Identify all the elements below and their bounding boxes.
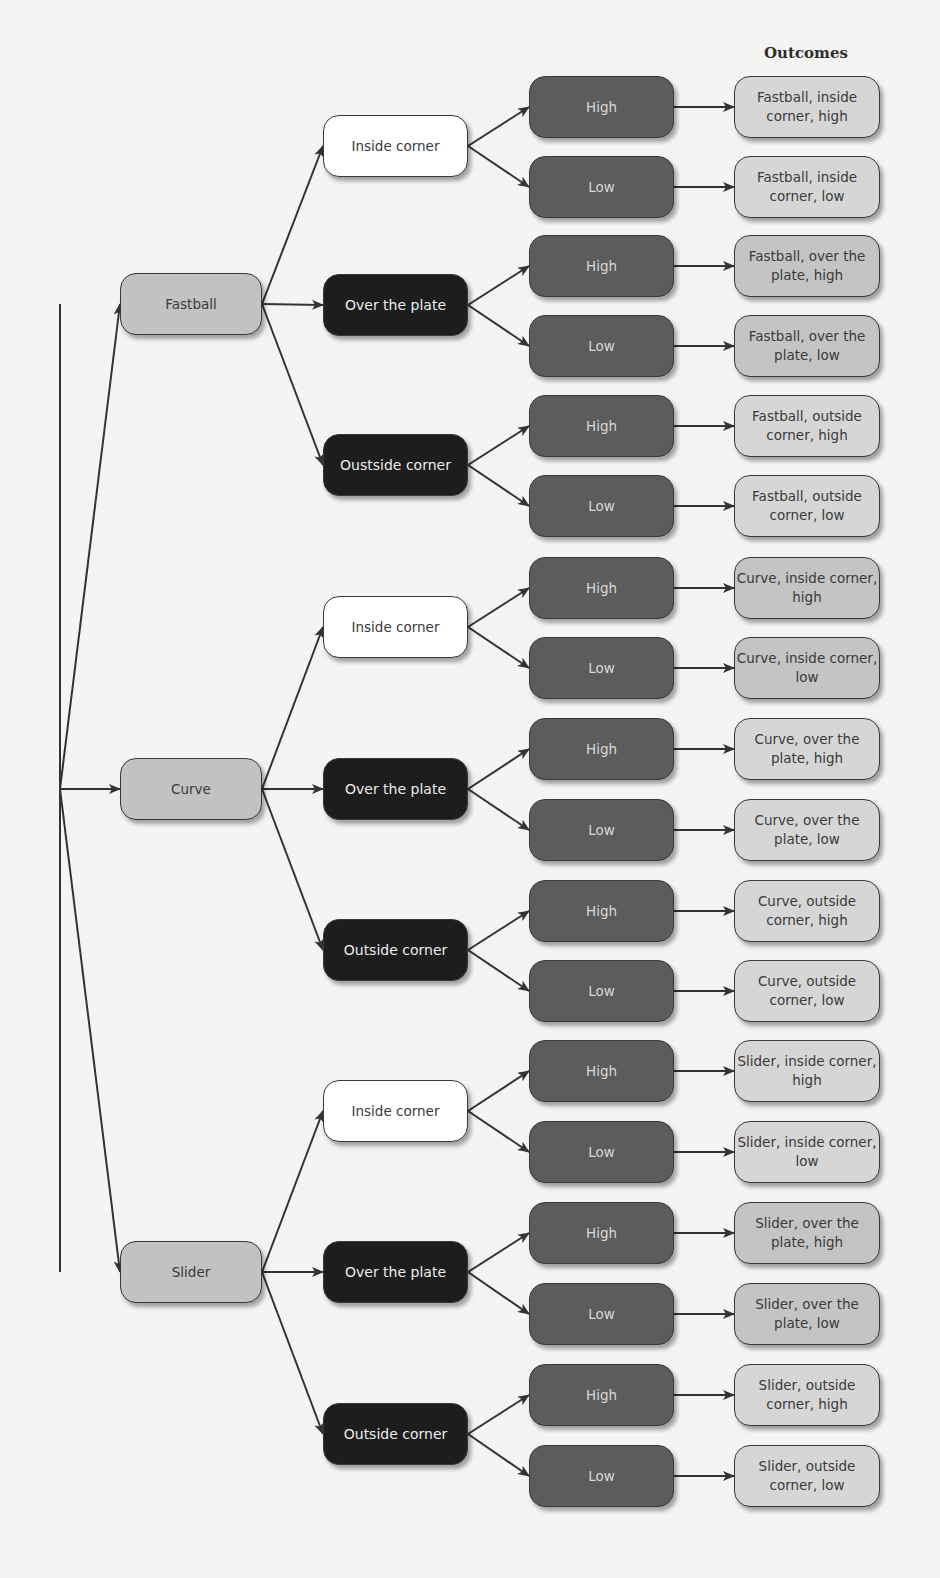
outcome-node-fastball-over-the-plate-low: Fastball, over the plate, low [734,315,880,377]
outcome-node-curve-inside-corner-low: Curve, inside corner, low [734,637,880,699]
height-node-slider-inside-corner-high-label: High [586,1062,617,1081]
location-node-fastball-over-the-plate: Over the plate [323,274,468,336]
outcome-node-slider-outside-corner-low-label: Slider, outside corner, low [735,1457,879,1495]
connector-arrow [468,305,529,346]
pitch-node-curve: Curve [120,758,262,820]
height-node-slider-over-the-plate-low-label: Low [588,1305,615,1324]
location-node-slider-over-the-plate: Over the plate [323,1241,468,1303]
connector-arrow [468,1272,529,1314]
connector-arrow [468,1071,529,1111]
location-node-curve-over-the-plate: Over the plate [323,758,468,820]
outcome-node-curve-outside-corner-low: Curve, outside corner, low [734,960,880,1022]
connector-arrow [60,789,120,1272]
outcomes-heading: Outcomes [764,44,848,62]
pitch-node-fastball: Fastball [120,273,262,335]
connector-arrow [468,266,529,305]
outcome-node-slider-outside-corner-high: Slider, outside corner, high [734,1364,880,1426]
outcome-node-fastball-inside-corner-high-label: Fastball, inside corner, high [735,88,879,126]
height-node-slider-inside-corner-low-label: Low [588,1143,615,1162]
height-node-slider-outside-corner-high-label: High [586,1386,617,1405]
outcome-node-curve-outside-corner-high: Curve, outside corner, high [734,880,880,942]
height-node-curve-over-the-plate-low: Low [529,799,674,861]
height-node-curve-over-the-plate-low-label: Low [588,821,615,840]
height-node-curve-over-the-plate-high: High [529,718,674,780]
outcome-node-fastball-over-the-plate-high-label: Fastball, over the plate, high [735,247,879,285]
outcome-node-curve-over-the-plate-high: Curve, over the plate, high [734,718,880,780]
location-node-slider-outside-corner-label: Outside corner [344,1425,448,1444]
outcome-node-fastball-over-the-plate-high: Fastball, over the plate, high [734,235,880,297]
height-node-fastball-oustside-corner-high-label: High [586,417,617,436]
height-node-fastball-over-the-plate-high: High [529,235,674,297]
connector-arrow [468,911,529,950]
pitch-node-fastball-label: Fastball [165,295,216,314]
height-node-fastball-over-the-plate-low-label: Low [588,337,615,356]
outcome-node-slider-over-the-plate-low: Slider, over the plate, low [734,1283,880,1345]
height-node-curve-over-the-plate-high-label: High [586,740,617,759]
connector-arrow [468,950,529,991]
connector-arrow [468,146,529,187]
outcome-node-fastball-inside-corner-high: Fastball, inside corner, high [734,76,880,138]
location-node-curve-outside-corner-label: Outside corner [344,941,448,960]
outcome-node-slider-inside-corner-low-label: Slider, inside corner, low [735,1133,879,1171]
height-node-slider-outside-corner-high: High [529,1364,674,1426]
height-node-fastball-oustside-corner-high: High [529,395,674,457]
location-node-slider-over-the-plate-label: Over the plate [345,1263,446,1282]
connector-arrow [468,1111,529,1152]
connector-arrow [468,749,529,789]
height-node-fastball-oustside-corner-low-label: Low [588,497,615,516]
height-node-fastball-inside-corner-low: Low [529,156,674,218]
outcome-node-fastball-inside-corner-low-label: Fastball, inside corner, low [735,168,879,206]
outcome-node-fastball-inside-corner-low: Fastball, inside corner, low [734,156,880,218]
connector-arrow [468,1233,529,1272]
outcome-node-slider-outside-corner-low: Slider, outside corner, low [734,1445,880,1507]
height-node-fastball-oustside-corner-low: Low [529,475,674,537]
height-node-fastball-over-the-plate-low: Low [529,315,674,377]
pitch-outcome-tree-diagram: Outcomes FastballInside cornerHighFastba… [0,0,940,1578]
outcome-node-curve-inside-corner-high: Curve, inside corner, high [734,557,880,619]
location-node-curve-inside-corner-label: Inside corner [352,618,440,637]
outcome-node-curve-over-the-plate-low: Curve, over the plate, low [734,799,880,861]
connector-arrow [262,304,323,465]
outcome-node-fastball-outside-corner-high-label: Fastball, outside corner, high [735,407,879,445]
connector-arrow [262,1272,323,1434]
location-node-fastball-oustside-corner-label: Oustside corner [340,456,451,475]
outcome-node-fastball-over-the-plate-low-label: Fastball, over the plate, low [735,327,879,365]
connector-arrow [468,107,529,146]
connector-arrow [60,304,120,789]
connector-arrow [468,465,529,506]
height-node-fastball-over-the-plate-high-label: High [586,257,617,276]
height-node-fastball-inside-corner-high-label: High [586,98,617,117]
location-node-slider-inside-corner: Inside corner [323,1080,468,1142]
connector-arrow [468,426,529,465]
location-node-curve-inside-corner: Inside corner [323,596,468,658]
height-node-curve-outside-corner-high-label: High [586,902,617,921]
outcome-node-slider-inside-corner-low: Slider, inside corner, low [734,1121,880,1183]
connector-arrow [468,1395,529,1434]
outcome-node-slider-over-the-plate-high-label: Slider, over the plate, high [735,1214,879,1252]
height-node-slider-outside-corner-low-label: Low [588,1467,615,1486]
outcome-node-fastball-outside-corner-low-label: Fastball, outside corner, low [735,487,879,525]
height-node-curve-outside-corner-high: High [529,880,674,942]
outcome-node-slider-over-the-plate-low-label: Slider, over the plate, low [735,1295,879,1333]
connector-arrow [262,627,323,789]
connector-arrow [262,304,323,305]
location-node-fastball-over-the-plate-label: Over the plate [345,296,446,315]
outcome-node-slider-outside-corner-high-label: Slider, outside corner, high [735,1376,879,1414]
pitch-node-slider: Slider [120,1241,262,1303]
pitch-node-curve-label: Curve [171,780,211,799]
outcome-node-curve-over-the-plate-low-label: Curve, over the plate, low [735,811,879,849]
height-node-curve-inside-corner-high: High [529,557,674,619]
outcome-node-curve-outside-corner-high-label: Curve, outside corner, high [735,892,879,930]
location-node-slider-inside-corner-label: Inside corner [352,1102,440,1121]
location-node-curve-outside-corner: Outside corner [323,919,468,981]
connector-arrow [262,146,323,304]
height-node-curve-inside-corner-high-label: High [586,579,617,598]
height-node-slider-over-the-plate-high-label: High [586,1224,617,1243]
height-node-fastball-inside-corner-high: High [529,76,674,138]
outcome-node-slider-inside-corner-high-label: Slider, inside corner, high [735,1052,879,1090]
outcome-node-slider-inside-corner-high: Slider, inside corner, high [734,1040,880,1102]
connector-arrow [468,588,529,627]
outcome-node-curve-over-the-plate-high-label: Curve, over the plate, high [735,730,879,768]
height-node-fastball-inside-corner-low-label: Low [588,178,615,197]
pitch-node-slider-label: Slider [172,1263,211,1282]
